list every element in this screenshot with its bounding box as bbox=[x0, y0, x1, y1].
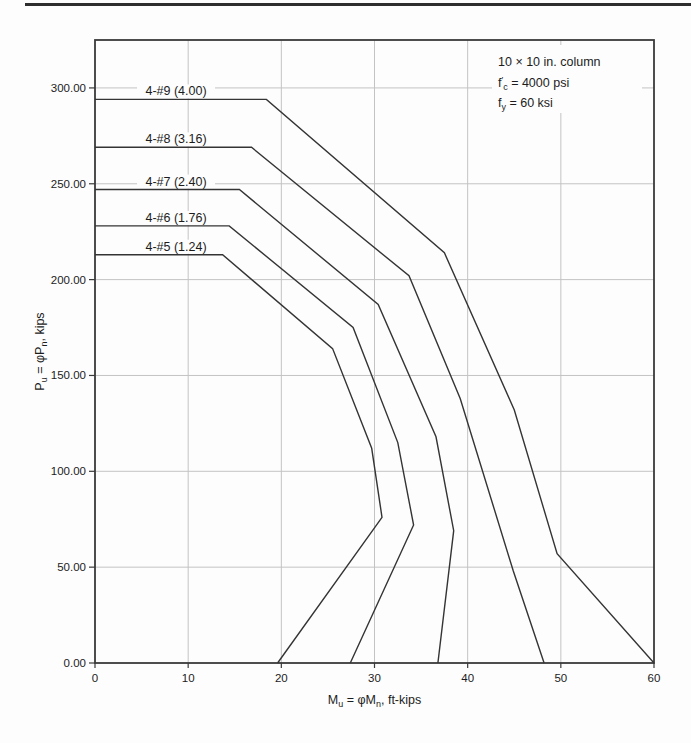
curve-label-4-5: 4-#5 (1.24) bbox=[145, 240, 206, 254]
x-axis-title: Mu = φMn, ft-kips bbox=[328, 693, 422, 709]
x-tick-label: 10 bbox=[182, 672, 195, 684]
x-tick-label: 0 bbox=[92, 672, 98, 684]
y-tick-label: 250.00 bbox=[51, 178, 86, 190]
y-tick-label: 200.00 bbox=[51, 274, 86, 286]
curve-4-6 bbox=[95, 226, 414, 663]
y-tick-label: 300.00 bbox=[51, 82, 86, 94]
curve-label-4-9: 4-#9 (4.00) bbox=[145, 84, 206, 98]
curve-4-7 bbox=[95, 190, 454, 664]
y-tick-label: 0.00 bbox=[64, 657, 86, 669]
x-tick-label: 30 bbox=[368, 672, 381, 684]
chart-svg: 01020304050600.0050.00100.00150.00200.00… bbox=[0, 0, 691, 743]
x-tick-label: 20 bbox=[275, 672, 288, 684]
curve-label-4-8: 4-#8 (3.16) bbox=[145, 132, 206, 146]
interaction-diagram: 01020304050600.0050.00100.00150.00200.00… bbox=[0, 0, 691, 743]
annotation-line-2: f′c = 4000 psi bbox=[498, 75, 569, 92]
annotation-line-3: fy = 60 ksi bbox=[498, 96, 553, 112]
curve-label-4-6: 4-#6 (1.76) bbox=[145, 211, 206, 225]
y-tick-label: 100.00 bbox=[51, 465, 86, 477]
y-tick-label: 50.00 bbox=[57, 561, 86, 573]
x-tick-label: 40 bbox=[461, 672, 474, 684]
x-tick-label: 60 bbox=[648, 672, 661, 684]
annotation-line-1: 10 × 10 in. column bbox=[498, 55, 601, 69]
page: 01020304050600.0050.00100.00150.00200.00… bbox=[0, 0, 691, 743]
y-axis-title: Pu = φPn, kips bbox=[33, 312, 49, 390]
x-tick-label: 50 bbox=[554, 672, 567, 684]
y-tick-label: 150.00 bbox=[51, 369, 86, 381]
curve-label-4-7: 4-#7 (2.40) bbox=[145, 175, 206, 189]
